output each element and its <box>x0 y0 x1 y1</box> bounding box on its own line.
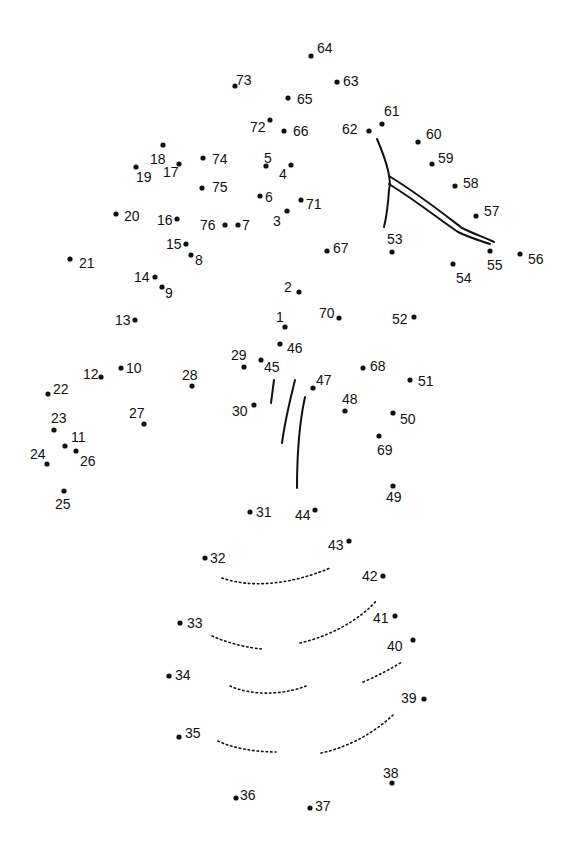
dot-number-label: 25 <box>55 496 71 512</box>
dot-number-label: 75 <box>212 179 228 195</box>
dot-41: 41 <box>373 610 398 626</box>
dot-marker <box>251 402 256 407</box>
dot-number-label: 18 <box>150 151 166 167</box>
dot-51: 51 <box>407 373 433 389</box>
dot-number-label: 73 <box>236 72 252 88</box>
dot-marker <box>312 507 317 512</box>
dot-to-dot-canvas: 1234567891011121314151617181920212223242… <box>0 0 578 857</box>
dot-marker <box>324 248 329 253</box>
dot-marker <box>267 117 272 122</box>
dot-72: 72 <box>250 117 273 135</box>
dot-28: 28 <box>182 367 198 389</box>
dot-marker <box>202 555 207 560</box>
dot-number-label: 71 <box>306 196 322 212</box>
dot-marker <box>177 620 182 625</box>
dot-73: 73 <box>232 72 251 89</box>
dot-66: 66 <box>281 123 308 139</box>
dot-76: 76 <box>200 217 228 233</box>
crown-leaf-strokes <box>377 139 494 244</box>
dot-marker <box>415 139 420 144</box>
dot-marker <box>285 95 290 100</box>
dot-marker <box>410 637 415 642</box>
body-strokes <box>271 380 305 488</box>
dot-number-label: 3 <box>273 213 281 229</box>
dot-marker <box>188 252 193 257</box>
dot-number-label: 44 <box>295 507 311 523</box>
dot-number-label: 26 <box>80 453 96 469</box>
dot-18: 18 <box>150 142 166 167</box>
dot-number-label: 60 <box>426 126 442 142</box>
dot-marker <box>429 161 434 166</box>
dot-number-label: 61 <box>384 103 400 119</box>
dot-marker <box>241 364 246 369</box>
dot-marker <box>360 365 365 370</box>
dot-marker <box>336 315 341 320</box>
dot-number-label: 48 <box>342 391 358 407</box>
dot-39: 39 <box>401 690 427 706</box>
dot-number-label: 32 <box>210 550 226 566</box>
dot-marker <box>44 461 49 466</box>
dot-34: 34 <box>166 667 190 683</box>
dot-4: 4 <box>279 162 294 182</box>
dot-number-label: 28 <box>182 367 198 383</box>
dot-marker <box>379 121 384 126</box>
dot-number-label: 57 <box>484 203 500 219</box>
dot-number-label: 22 <box>53 381 69 397</box>
dot-37: 37 <box>307 798 330 814</box>
dot-74: 74 <box>200 151 227 167</box>
dot-31: 31 <box>247 504 271 520</box>
dot-25: 25 <box>55 488 71 512</box>
dot-10: 10 <box>118 360 141 376</box>
dot-marker <box>152 274 157 279</box>
numbered-dots: 1234567891011121314151617181920212223242… <box>30 40 544 814</box>
dot-marker <box>199 185 204 190</box>
dot-number-label: 24 <box>30 446 46 462</box>
dot-number-label: 66 <box>293 123 309 139</box>
dot-number-label: 35 <box>185 725 201 741</box>
dot-number-label: 74 <box>212 151 228 167</box>
dot-number-label: 23 <box>51 410 67 426</box>
dot-69: 69 <box>376 433 392 458</box>
dot-marker <box>61 488 66 493</box>
dot-marker <box>517 251 522 256</box>
dot-number-label: 65 <box>297 91 313 107</box>
dot-63: 63 <box>334 73 358 89</box>
dot-number-label: 7 <box>242 217 250 233</box>
dot-number-label: 20 <box>124 208 140 224</box>
dot-44: 44 <box>295 507 318 523</box>
dot-number-label: 46 <box>287 340 303 356</box>
dot-number-label: 5 <box>264 150 272 166</box>
dot-number-label: 69 <box>377 442 393 458</box>
dot-36: 36 <box>233 787 255 803</box>
dot-58: 58 <box>452 175 478 191</box>
dot-number-label: 10 <box>126 360 142 376</box>
dot-number-label: 37 <box>315 798 331 814</box>
dot-6: 6 <box>257 189 273 205</box>
dot-3: 3 <box>273 208 290 229</box>
dot-number-label: 43 <box>328 537 344 553</box>
dot-marker <box>200 155 205 160</box>
dot-48: 48 <box>342 391 358 414</box>
dot-38: 38 <box>383 765 399 786</box>
dot-number-label: 36 <box>240 787 256 803</box>
dot-marker <box>298 197 303 202</box>
dot-marker <box>51 427 56 432</box>
dot-marker <box>282 324 287 329</box>
dot-number-label: 29 <box>231 347 247 363</box>
dot-20: 20 <box>113 208 139 224</box>
dot-12: 12 <box>83 366 104 382</box>
dot-60: 60 <box>415 126 441 145</box>
dot-54: 54 <box>450 261 471 286</box>
dot-57: 57 <box>473 203 499 219</box>
dot-marker <box>407 377 412 382</box>
dot-marker <box>174 216 179 221</box>
dot-15: 15 <box>166 236 189 252</box>
dot-11: 11 <box>62 429 85 449</box>
dot-45: 45 <box>258 357 279 375</box>
dot-2: 2 <box>284 279 302 295</box>
dot-70: 70 <box>319 305 342 321</box>
dot-marker <box>392 613 397 618</box>
dot-27: 27 <box>129 405 147 427</box>
dot-marker <box>159 284 164 289</box>
dot-number-label: 19 <box>136 169 152 185</box>
